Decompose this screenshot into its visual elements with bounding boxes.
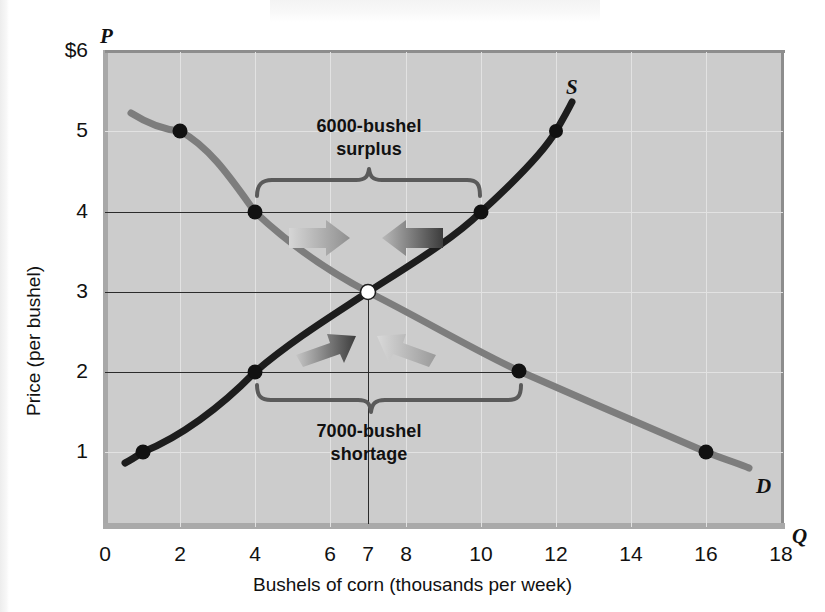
gridline-vertical-2 xyxy=(180,52,181,527)
x-tick-16: 16 xyxy=(686,542,726,566)
gridline-vertical-10 xyxy=(481,52,482,527)
y-tick-5: 5 xyxy=(32,118,88,142)
surplus-annotation-line-2: surplus xyxy=(269,138,469,161)
x-tick-4: 4 xyxy=(235,542,275,566)
page-left-edge-shade xyxy=(0,0,9,612)
x-axis-symbol: Q xyxy=(792,524,807,549)
reference-line-quantity-7 xyxy=(368,292,369,524)
surplus-annotation-line-1: 6000-bushel xyxy=(269,115,469,138)
x-tick-10: 10 xyxy=(461,542,501,566)
x-tick-6: 6 xyxy=(310,542,350,566)
scan-artifact-band xyxy=(270,0,600,22)
demand-curve-label: D xyxy=(756,474,771,499)
x-tick-8: 8 xyxy=(386,542,426,566)
x-tick-0: 0 xyxy=(85,542,125,566)
y-axis-title: Price (per bushel) xyxy=(23,211,45,471)
x-tick-12: 12 xyxy=(536,542,576,566)
reference-line-price-3 xyxy=(105,292,369,293)
gridline-vertical-12 xyxy=(556,52,557,527)
reference-line-price-2 xyxy=(105,372,520,373)
surplus-annotation: 6000-bushel surplus xyxy=(269,115,469,161)
x-tick-14: 14 xyxy=(611,542,651,566)
shortage-annotation-line-2: shortage xyxy=(269,443,469,466)
plot-border-right xyxy=(781,50,784,529)
y-tick-6: $6 xyxy=(32,38,88,62)
reference-line-price-4 xyxy=(105,212,482,213)
gridline-vertical-14 xyxy=(631,52,632,527)
x-axis-title: Bushels of corn (thousands per week) xyxy=(0,574,825,596)
gridline-vertical-4 xyxy=(255,52,256,527)
plot-border-left xyxy=(103,50,108,529)
shortage-annotation-line-1: 7000-bushel xyxy=(269,420,469,443)
y-axis-symbol: P xyxy=(100,24,113,49)
plot-border-bottom xyxy=(103,523,785,529)
supply-curve-label: S xyxy=(566,75,578,100)
x-tick-2: 2 xyxy=(160,542,200,566)
figure-canvas: $6 5 4 3 2 1 0 2 4 6 7 8 10 12 14 16 18 … xyxy=(0,0,825,612)
shortage-annotation: 7000-bushel shortage xyxy=(269,420,469,466)
plot-border-top xyxy=(105,50,785,53)
x-tick-7: 7 xyxy=(348,542,388,566)
gridline-vertical-16 xyxy=(706,52,707,527)
